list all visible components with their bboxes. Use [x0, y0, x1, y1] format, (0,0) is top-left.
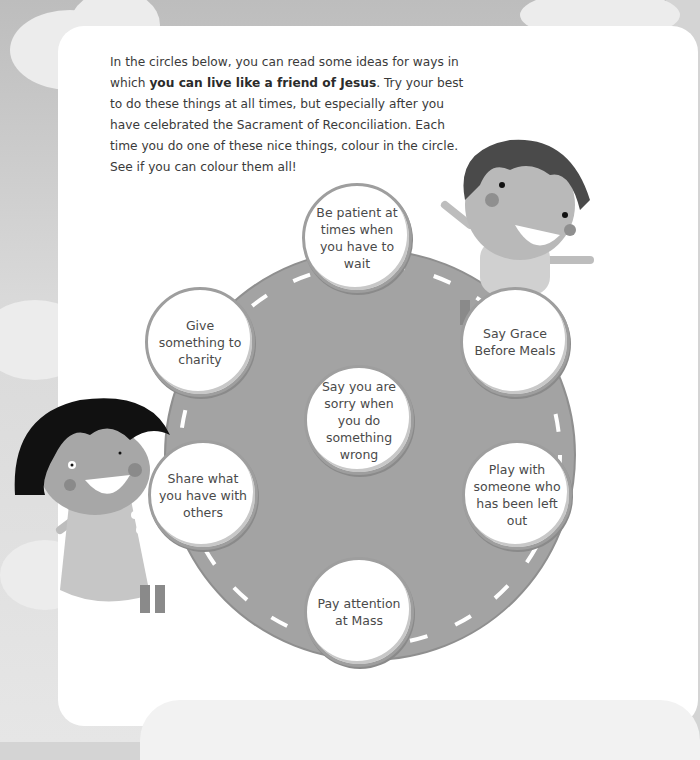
goal-circle-give-to-charity[interactable]: Give something to charity	[145, 287, 255, 397]
goal-circle-share[interactable]: Share what you have with others	[148, 440, 258, 550]
goal-label: Pay attention at Mass	[311, 595, 407, 629]
goal-circle-play-with-someone[interactable]: Play with someone who has been left out	[462, 440, 572, 550]
goal-circle-say-grace[interactable]: Say Grace Before Meals	[460, 287, 570, 397]
goal-label: Share what you have with others	[155, 470, 251, 521]
goal-label: Be patient at times when you have to wai…	[309, 204, 405, 272]
goal-circle-pay-attention[interactable]: Pay attention at Mass	[304, 557, 414, 667]
goal-circle-say-sorry[interactable]: Say you are sorry when you do something …	[304, 365, 414, 475]
goal-label: Play with someone who has been left out	[469, 461, 565, 529]
goal-label: Say you are sorry when you do something …	[311, 378, 407, 463]
goal-circle-be-patient[interactable]: Be patient at times when you have to wai…	[302, 183, 412, 293]
goal-label: Say Grace Before Meals	[467, 325, 563, 359]
goal-label: Give something to charity	[152, 317, 248, 368]
